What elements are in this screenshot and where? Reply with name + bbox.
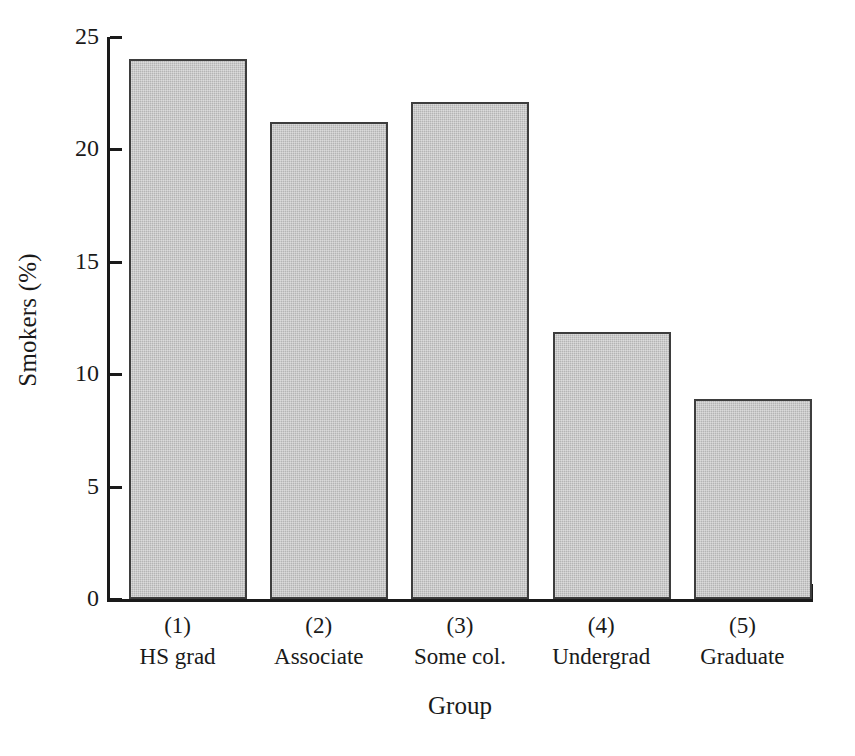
x-tick-label-number: (3) xyxy=(389,610,530,641)
bar-4 xyxy=(553,332,671,600)
y-tick-mark xyxy=(110,148,122,151)
x-tick-label-name: Graduate xyxy=(672,641,813,672)
x-tick-label-group-2: (2)Associate xyxy=(248,610,389,672)
y-axis-line xyxy=(107,37,110,601)
x-tick-label-number: (1) xyxy=(107,610,248,641)
x-tick-label-number: (2) xyxy=(248,610,389,641)
x-tick-label-name: Some col. xyxy=(389,641,530,672)
x-tick-label-group-5: (5)Graduate xyxy=(672,610,813,672)
x-tick-label-number: (5) xyxy=(672,610,813,641)
bar-2 xyxy=(270,122,388,599)
x-tick-label-name: Associate xyxy=(248,641,389,672)
bar-5 xyxy=(694,399,812,599)
x-tick-label-name: Undergrad xyxy=(531,641,672,672)
bar-3 xyxy=(411,102,529,599)
x-tick-label-group-1: (1)HS grad xyxy=(107,610,248,672)
x-axis-title: Group xyxy=(107,692,813,720)
plot-area: 0510152025 xyxy=(107,37,813,601)
y-axis-tick-labels: 0510152025 xyxy=(29,37,99,601)
x-tick-label-group-3: (3)Some col. xyxy=(389,610,530,672)
x-tick-label-name: HS grad xyxy=(107,641,248,672)
x-axis-line xyxy=(107,599,813,602)
y-tick-label: 0 xyxy=(39,586,99,610)
y-tick-mark xyxy=(110,486,122,489)
y-tick-label: 20 xyxy=(39,136,99,160)
y-tick-label: 15 xyxy=(39,249,99,273)
y-tick-mark xyxy=(110,373,122,376)
bar-chart: Smokers (%) 0510152025 (1)HS grad(2)Asso… xyxy=(0,0,855,756)
x-tick-label-group-4: (4)Undergrad xyxy=(531,610,672,672)
y-tick-label: 5 xyxy=(39,474,99,498)
category-labels: (1)HS grad(2)Associate(3)Some col.(4)Und… xyxy=(107,610,813,682)
y-tick-mark xyxy=(110,36,122,39)
x-tick-label-number: (4) xyxy=(531,610,672,641)
bar-1 xyxy=(129,59,247,599)
y-tick-mark xyxy=(110,261,122,264)
y-tick-label: 10 xyxy=(39,361,99,385)
y-tick-label: 25 xyxy=(39,24,99,48)
y-tick-mark xyxy=(110,598,122,601)
